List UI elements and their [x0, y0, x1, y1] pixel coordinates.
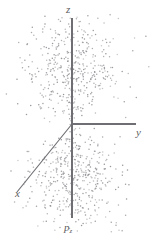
y-axis-label: y	[136, 127, 141, 138]
figure-canvas	[0, 0, 154, 242]
pz-orbital-figure: z y x pz	[0, 0, 154, 242]
x-axis-label: x	[15, 188, 20, 199]
point-cloud-scatter	[6, 14, 150, 233]
x-axis-line	[17, 124, 72, 192]
orbital-label-subscript: z	[70, 227, 73, 235]
z-axis-label: z	[66, 4, 70, 15]
orbital-label: pz	[64, 222, 72, 235]
